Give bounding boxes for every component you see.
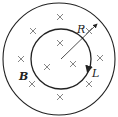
- field-label: B: [18, 70, 28, 83]
- magnetic-field-diagram: R L B: [0, 0, 118, 117]
- radius-label: R: [76, 23, 85, 36]
- loop-label: L: [91, 67, 99, 80]
